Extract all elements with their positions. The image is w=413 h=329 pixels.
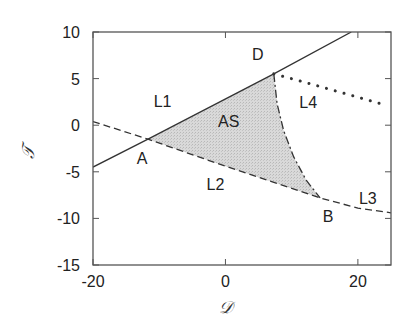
y-tick-label: 5	[71, 71, 80, 88]
x-tick-label: -20	[81, 273, 104, 290]
y-axis-label: 𝒯	[18, 141, 38, 159]
x-tick-labels: -20020	[81, 273, 366, 290]
annotation-a: A	[137, 150, 148, 167]
x-tick-label: 20	[349, 273, 367, 290]
y-tick-label: -5	[66, 164, 80, 181]
annotation-l2: L2	[207, 176, 225, 193]
series-dotted-line	[274, 74, 381, 104]
annotation-l3: L3	[359, 190, 377, 207]
annotation-d: D	[252, 46, 264, 63]
x-axis-label: 𝒟	[219, 297, 236, 317]
y-tick-label: 0	[71, 117, 80, 134]
phase-diagram-chart: 1050-5-10-15 -20020 L1ASL2L4L3ABD 𝒟 𝒯	[0, 0, 413, 329]
shaded-region-as	[148, 74, 320, 198]
annotation-l4: L4	[299, 94, 317, 111]
annotation-l1: L1	[154, 93, 172, 110]
y-tick-label: -10	[57, 210, 80, 227]
annotation-b: B	[323, 208, 334, 225]
y-tick-labels: 1050-5-10-15	[57, 24, 80, 274]
x-tick-label: 0	[221, 273, 230, 290]
y-tick-label: 10	[62, 24, 80, 41]
annotation-as: AS	[218, 113, 239, 130]
y-tick-label: -15	[57, 257, 80, 274]
